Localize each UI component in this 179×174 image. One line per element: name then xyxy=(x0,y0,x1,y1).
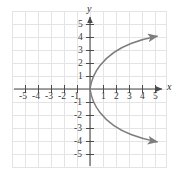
x-axis-label: x xyxy=(167,82,171,92)
x-tick-label-2: 2 xyxy=(114,92,119,102)
coordinate-plane xyxy=(0,0,179,174)
x-tick-label--5: -5 xyxy=(19,92,27,102)
y-tick-label--1: -1 xyxy=(74,98,82,108)
y-tick-label--3: -3 xyxy=(74,124,82,134)
graph-figure: -5 -4 -3 -2 -1 1 2 3 4 5 5 4 3 2 1 -1 -2… xyxy=(0,0,179,174)
x-tick-label--3: -3 xyxy=(45,92,53,102)
y-axis-label: y xyxy=(87,4,91,14)
x-tick-label--2: -2 xyxy=(58,92,66,102)
y-tick-label--2: -2 xyxy=(74,111,82,121)
x-tick-label-1: 1 xyxy=(101,92,106,102)
x-tick-label-3: 3 xyxy=(127,92,132,102)
y-tick-label--5: -5 xyxy=(74,150,82,160)
y-tick-label-3: 3 xyxy=(78,46,83,56)
x-tick-label-4: 4 xyxy=(140,92,145,102)
y-tick-label--4: -4 xyxy=(74,137,82,147)
y-tick-label-2: 2 xyxy=(78,59,83,69)
y-tick-label-5: 5 xyxy=(78,20,83,30)
y-tick-label-1: 1 xyxy=(78,72,83,82)
y-tick-label-4: 4 xyxy=(78,33,83,43)
x-tick-label-5: 5 xyxy=(153,92,158,102)
x-tick-label--4: -4 xyxy=(32,92,40,102)
